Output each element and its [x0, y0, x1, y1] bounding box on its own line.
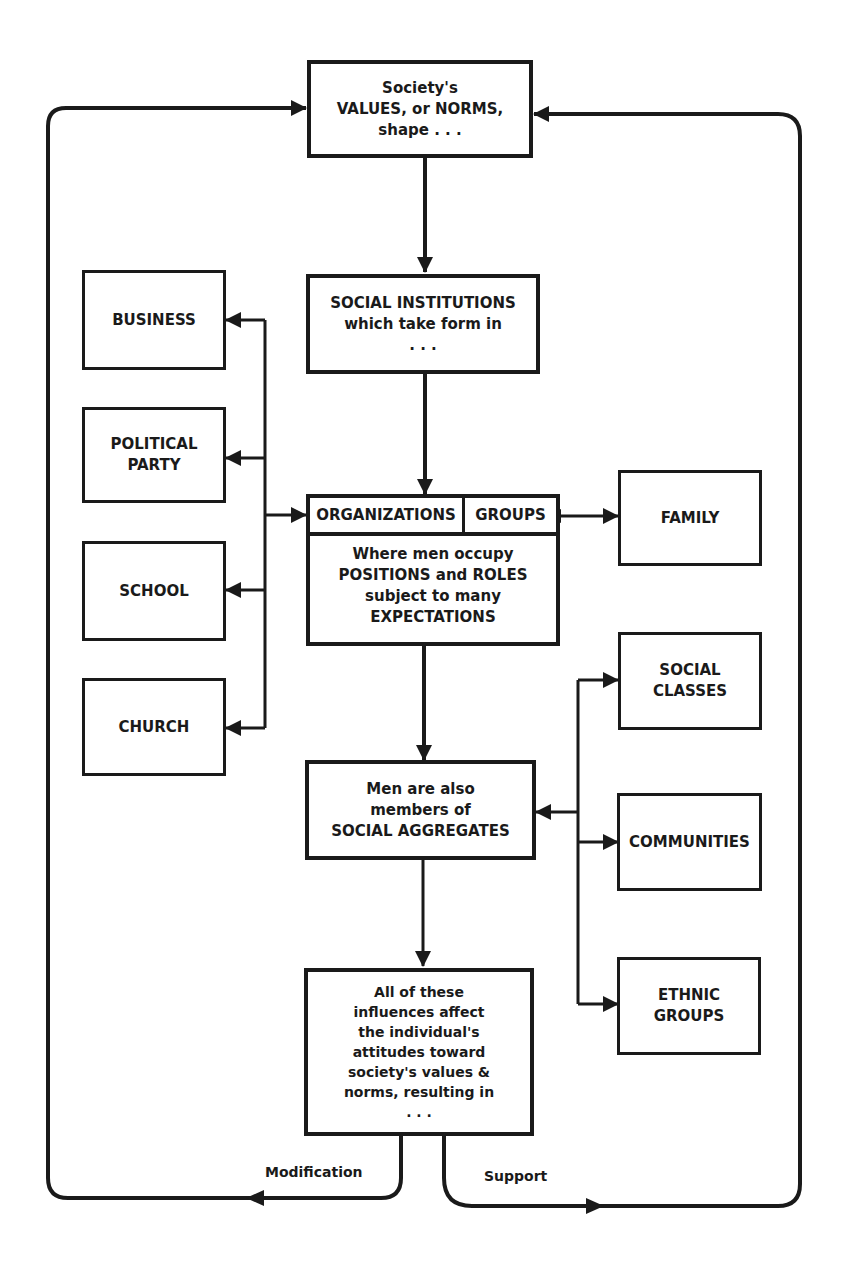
support-arrowhead: [586, 1198, 604, 1214]
values-line-1: Society's: [382, 78, 458, 99]
social-institutions-box: SOCIAL INSTITUTIONS which take form in .…: [306, 274, 540, 374]
school-box: SCHOOL: [82, 541, 226, 641]
organizations-groups-box: ORGANIZATIONS GROUPS Where men occupy PO…: [306, 494, 560, 646]
political-party-line-2: PARTY: [127, 455, 180, 476]
social-classes-line-2: CLASSES: [653, 681, 727, 702]
organizations-groups-header: ORGANIZATIONS GROUPS: [310, 498, 556, 536]
aggregates-line-1: Men are also: [366, 779, 474, 800]
institutions-line-3: . . .: [409, 335, 437, 356]
family-box: FAMILY: [618, 470, 762, 566]
values-norms-box: Society's VALUES, or NORMS, shape . . .: [307, 60, 533, 158]
social-structure-flow-diagram: ... of societies.: [0, 0, 841, 1286]
institutions-line-1: SOCIAL INSTITUTIONS: [330, 293, 516, 314]
family-label: FAMILY: [661, 508, 720, 529]
values-line-3: shape . . .: [378, 120, 461, 141]
influences-line-6: norms, resulting in: [344, 1082, 494, 1102]
influences-box: All of these influences affect the indiv…: [304, 968, 534, 1136]
communities-label: COMMUNITIES: [629, 832, 750, 853]
communities-box: COMMUNITIES: [617, 793, 762, 891]
ethnic-groups-box: ETHNIC GROUPS: [617, 957, 761, 1055]
ethnic-groups-line-1: ETHNIC: [658, 985, 720, 1006]
orgs-line-3: subject to many: [339, 586, 528, 607]
values-line-2: VALUES, or NORMS,: [337, 99, 504, 120]
aggregates-line-3: SOCIAL AGGREGATES: [331, 821, 510, 842]
influences-line-2: influences affect: [354, 1002, 485, 1022]
influences-line-4: attitudes toward: [353, 1042, 486, 1062]
business-box: BUSINESS: [82, 270, 226, 370]
influences-line-1: All of these: [374, 982, 464, 1002]
orgs-line-2: POSITIONS and ROLES: [339, 565, 528, 586]
organizations-cell: ORGANIZATIONS: [310, 498, 465, 532]
modification-arrowhead: [246, 1190, 264, 1206]
social-classes-box: SOCIAL CLASSES: [618, 632, 762, 730]
modification-label: Modification: [265, 1164, 363, 1180]
orgs-line-4: EXPECTATIONS: [339, 607, 528, 628]
aggregates-line-2: members of: [370, 800, 471, 821]
social-classes-line-1: SOCIAL: [659, 660, 720, 681]
school-label: SCHOOL: [119, 581, 188, 602]
groups-cell: GROUPS: [465, 498, 556, 532]
support-label: Support: [484, 1168, 547, 1184]
influences-line-3: the individual's: [358, 1022, 479, 1042]
political-party-line-1: POLITICAL: [111, 434, 198, 455]
organizations-body: Where men occupy POSITIONS and ROLES sub…: [339, 544, 528, 628]
business-label: BUSINESS: [112, 310, 196, 331]
influences-line-5: society's values &: [348, 1062, 490, 1082]
church-box: CHURCH: [82, 678, 226, 776]
influences-line-7: . . .: [406, 1102, 432, 1122]
institutions-line-2: which take form in: [344, 314, 502, 335]
church-label: CHURCH: [119, 717, 190, 738]
ethnic-groups-line-2: GROUPS: [654, 1006, 725, 1027]
political-party-box: POLITICAL PARTY: [82, 407, 226, 503]
social-aggregates-box: Men are also members of SOCIAL AGGREGATE…: [305, 760, 536, 860]
orgs-line-1: Where men occupy: [339, 544, 528, 565]
